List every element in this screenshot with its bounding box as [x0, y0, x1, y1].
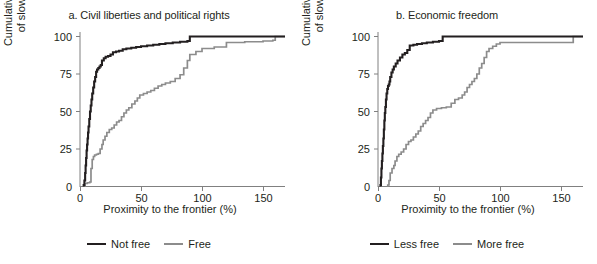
panel-b-legend-item-less-free: Less free	[370, 238, 439, 250]
panel-a-ytick-25: 25	[60, 143, 72, 155]
panel-a-x-axis-label: Proximity to the frontier (%)	[60, 203, 280, 215]
panel-b-series-group	[380, 37, 583, 187]
panel-a-ytick-75: 75	[60, 68, 72, 80]
panel-a-legend: Not free Free	[0, 238, 298, 250]
panel-a-legend-label-free: Free	[188, 238, 211, 250]
panel-a-series-free	[85, 37, 285, 187]
panel-b-ytick-100: 100	[352, 31, 370, 43]
panel-b-legend-item-more-free: More free	[453, 238, 524, 250]
panel-b-ytick-50: 50	[358, 106, 370, 118]
panel-a-legend-item-not-free: Not free	[87, 238, 150, 250]
panel-b-axes	[374, 32, 583, 191]
panel-b-series-more-free	[388, 37, 583, 187]
panel-a-plot: 100 75 50 25 0 0 50 100 150	[0, 0, 298, 264]
panel-a-ytick-labels: 100 75 50 25 0	[54, 31, 72, 194]
figure-root: a. Civil liberties and political rights …	[0, 0, 597, 264]
panel-b-legend-label-less-free: Less free	[394, 238, 439, 250]
panel-a-ytick-50: 50	[60, 106, 72, 118]
panel-b-plot: 100 75 50 25 0 0 50 100 150	[298, 0, 597, 264]
panel-b-legend-label-more-free: More free	[477, 238, 524, 250]
panel-b-legend: Less free More free	[298, 238, 596, 250]
panel-a-ytick-100: 100	[54, 31, 72, 43]
panel-b-ytick-75: 75	[358, 68, 370, 80]
panel-b-ytick-labels: 100 75 50 25 0	[352, 31, 370, 194]
panel-b: b. Economic freedom Cumulative probabili…	[298, 0, 596, 264]
panel-b-ytick-25: 25	[358, 143, 370, 155]
panel-a-legend-swatch-free	[164, 243, 183, 245]
panel-b-x-axis-label: Proximity to the frontier (%)	[358, 203, 578, 215]
panel-a-legend-item-free: Free	[164, 238, 211, 250]
panel-a-series-not-free	[84, 37, 285, 187]
panel-b-series-less-free	[380, 37, 583, 187]
panel-a-series-group	[84, 37, 285, 187]
panel-a-ytick-0: 0	[66, 181, 72, 193]
panel-a: a. Civil liberties and political rights …	[0, 0, 298, 264]
panel-a-legend-swatch-not-free	[87, 243, 106, 245]
panel-b-legend-swatch-less-free	[370, 243, 389, 245]
panel-b-legend-swatch-more-free	[453, 243, 472, 245]
panel-a-legend-label-not-free: Not free	[111, 238, 150, 250]
panel-b-ytick-0: 0	[364, 181, 370, 193]
